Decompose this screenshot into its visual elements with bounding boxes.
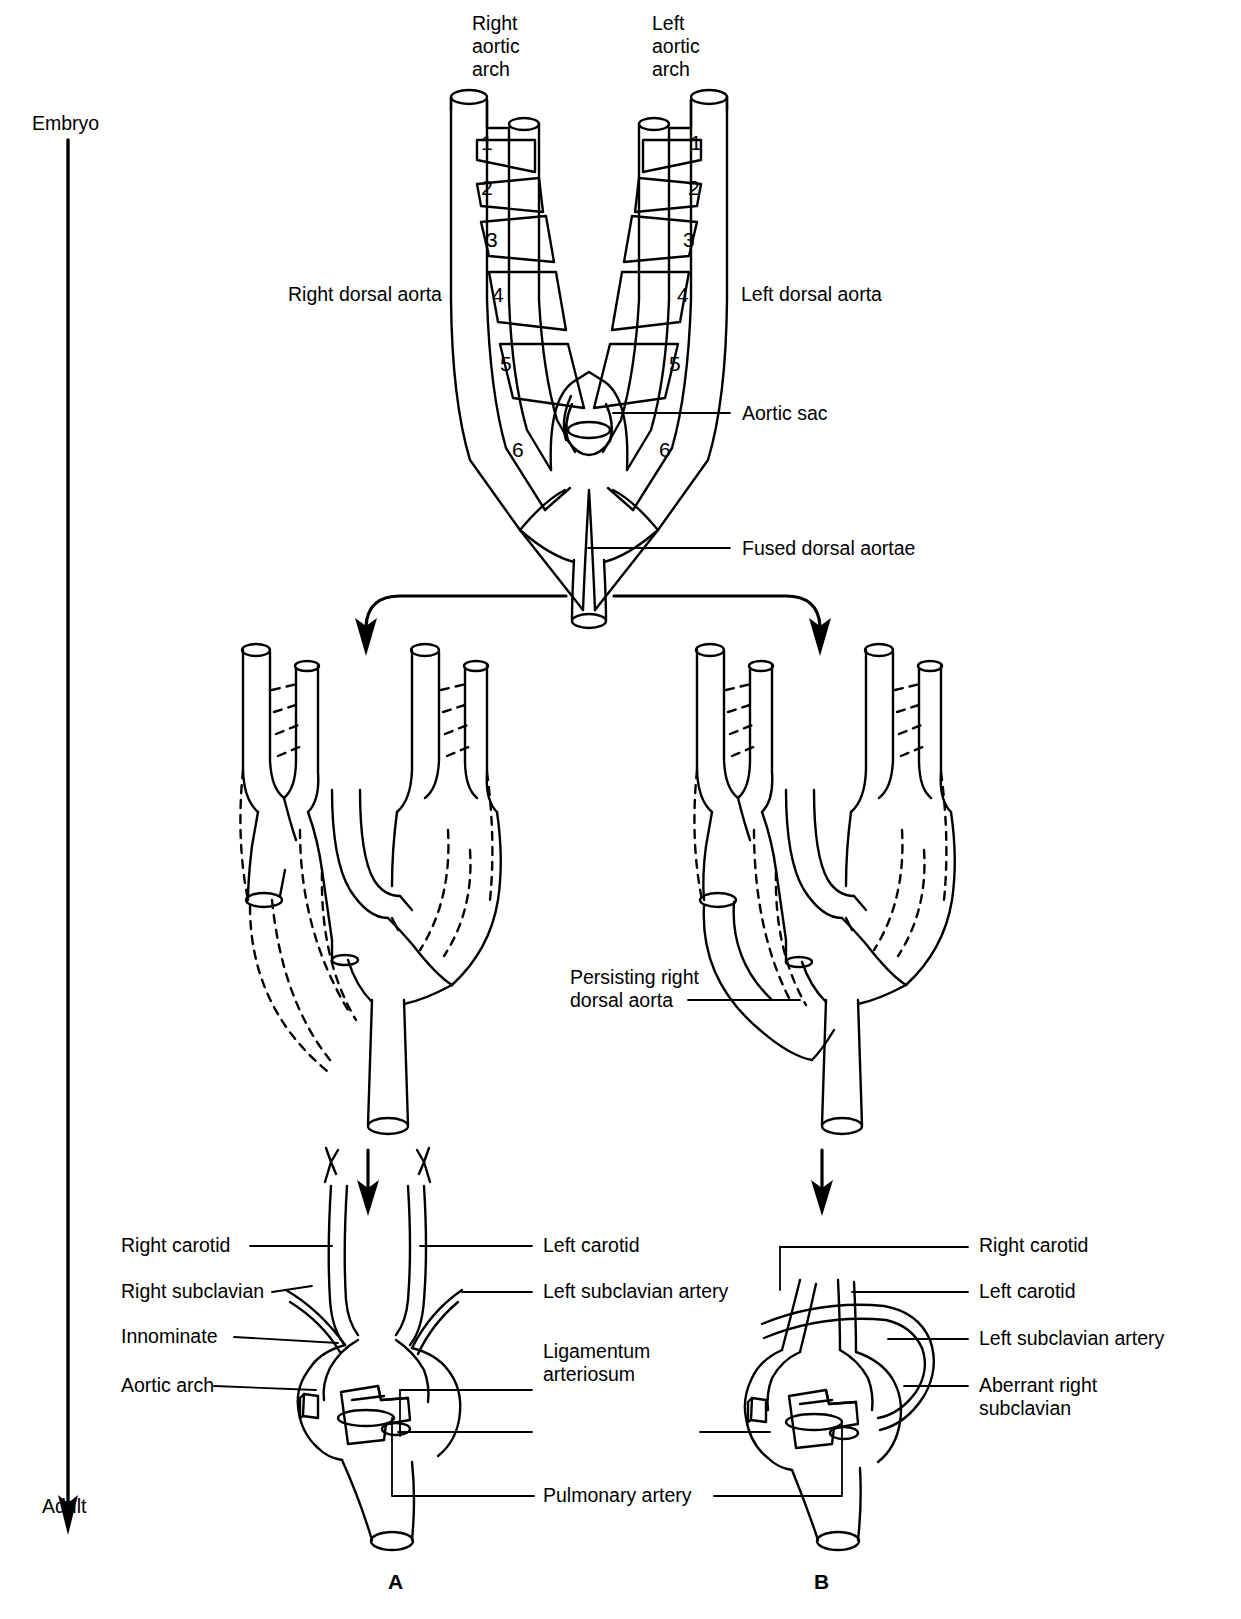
stage-arrows [357, 1150, 833, 1216]
label-right-dorsal-aorta: Right dorsal aorta [288, 283, 442, 306]
arch-number-left-1: 1 [690, 131, 702, 154]
arch-number-left-2: 2 [688, 176, 700, 199]
intermediate-stage-b [694, 644, 954, 1134]
panel-letter-b: B [814, 1570, 829, 1594]
label-a-left-carotid: Left carotid [543, 1234, 639, 1257]
arch-number-right-2: 2 [481, 176, 493, 199]
arch-number-right-3: 3 [486, 228, 498, 251]
figure-canvas: Embryo Adult Right aortic arch Left aort… [0, 0, 1241, 1619]
label-b-left-carotid: Left carotid [979, 1280, 1075, 1303]
adult-arch-a [286, 1148, 462, 1550]
timeline-arrow [58, 140, 78, 1535]
arch-number-left-6: 6 [659, 438, 671, 461]
label-left-aortic-arch: Left aortic arch [652, 12, 700, 81]
label-pulmonary-artery: Pulmonary artery [543, 1484, 691, 1507]
timeline-label-embryo: Embryo [32, 112, 99, 135]
label-a-innominate: Innominate [121, 1325, 217, 1348]
label-right-aortic-arch: Right aortic arch [472, 12, 520, 81]
panel-letter-a: A [388, 1570, 403, 1594]
label-left-dorsal-aorta: Left dorsal aorta [741, 283, 882, 306]
timeline-label-adult: Adult [42, 1495, 86, 1518]
label-fused-dorsal-aortae: Fused dorsal aortae [742, 537, 915, 560]
label-b-left-subclavian-artery: Left subclavian artery [979, 1327, 1164, 1350]
label-a-right-carotid: Right carotid [121, 1234, 230, 1257]
arch-number-left-4: 4 [677, 283, 689, 306]
intermediate-stage-a [240, 644, 500, 1134]
arch-number-right-5: 5 [500, 352, 512, 375]
label-a-right-subclavian: Right subclavian [121, 1280, 264, 1303]
arch-number-right-4: 4 [492, 283, 504, 306]
label-persisting-right-dorsal-aorta: Persisting right dorsal aorta [570, 966, 699, 1012]
arch-number-left-3: 3 [683, 228, 695, 251]
branch-arrows [355, 596, 831, 656]
label-a-ligamentum-arteriosum: Ligamentum arteriosum [543, 1340, 650, 1386]
label-b-right-carotid: Right carotid [979, 1234, 1088, 1257]
label-aortic-sac: Aortic sac [742, 402, 828, 425]
arch-number-right-1: 1 [481, 131, 493, 154]
label-a-aortic-arch: Aortic arch [121, 1374, 214, 1397]
arch-number-left-5: 5 [669, 352, 681, 375]
label-a-left-subclavian-artery: Left subclavian artery [543, 1280, 728, 1303]
adult-arch-b [745, 1280, 934, 1550]
arch-number-right-6: 6 [512, 438, 524, 461]
label-b-aberrant-right-subclavian: Aberrant right subclavian [979, 1374, 1097, 1420]
